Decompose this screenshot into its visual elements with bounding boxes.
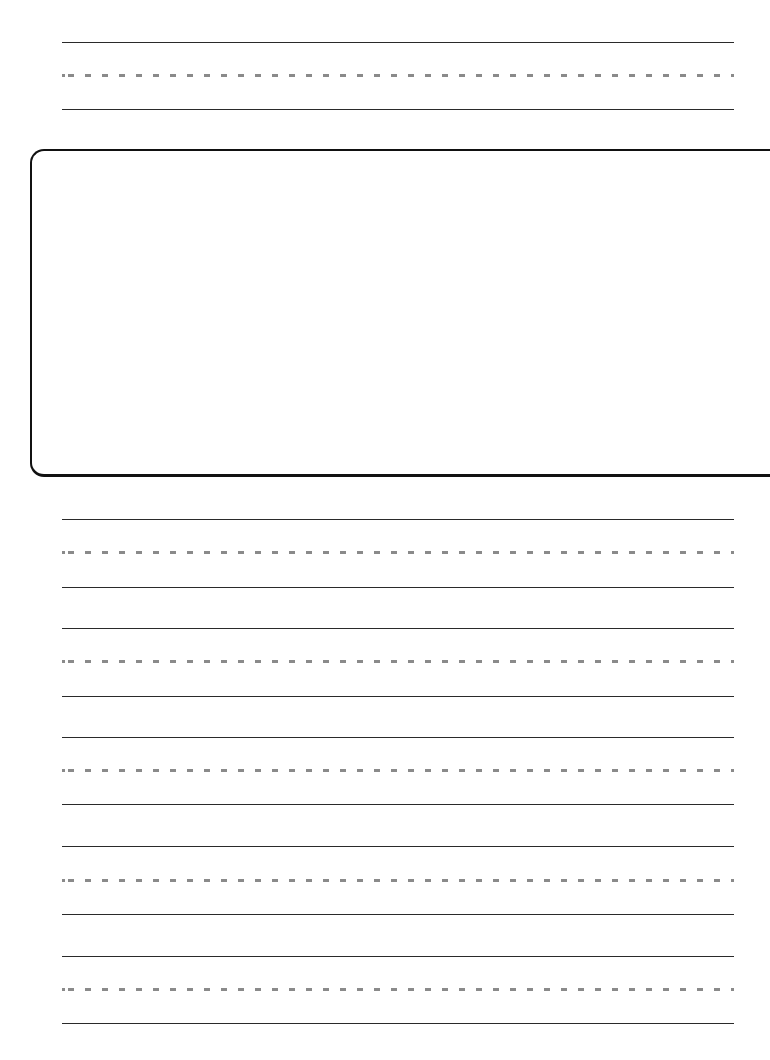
dashed-midline <box>62 74 734 77</box>
dashed-midline <box>62 988 734 991</box>
baseline <box>62 914 734 915</box>
baseline <box>62 109 734 110</box>
top-line <box>62 956 734 957</box>
baseline <box>62 696 734 697</box>
top-line <box>62 628 734 629</box>
baseline <box>62 804 734 805</box>
top-line <box>62 737 734 738</box>
dashed-midline <box>62 879 734 882</box>
dashed-midline <box>62 660 734 663</box>
dashed-midline <box>62 769 734 772</box>
drawing-box[interactable] <box>30 149 770 477</box>
baseline <box>62 587 734 588</box>
top-line <box>62 519 734 520</box>
top-line <box>62 846 734 847</box>
dashed-midline <box>62 551 734 554</box>
baseline <box>62 1023 734 1024</box>
top-line <box>62 42 734 43</box>
